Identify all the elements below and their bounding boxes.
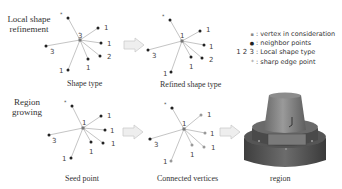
legend-label: : sharp edge point bbox=[256, 58, 316, 66]
svg-text:1: 1 bbox=[210, 130, 214, 138]
svg-text:1: 1 bbox=[59, 67, 63, 75]
center-label: 1 bbox=[82, 119, 86, 127]
neighbor-points bbox=[48, 105, 107, 160]
caption-seed-point: Seed point bbox=[65, 174, 99, 183]
legend-label: : vertex in consideration bbox=[256, 30, 335, 38]
legend-item-sharp-edge: *: sharp edge point bbox=[232, 57, 335, 66]
region-3d-render bbox=[240, 92, 330, 170]
svg-text:1: 1 bbox=[89, 148, 93, 156]
sharp-edge-icon: * bbox=[60, 11, 63, 17]
caption-connected-vertices: Connected vertices bbox=[157, 174, 218, 183]
svg-text:3: 3 bbox=[50, 48, 54, 56]
legend: ▪: vertex in consideration ●: neighbor p… bbox=[232, 30, 335, 66]
sharp-edge-icon: * bbox=[64, 99, 67, 105]
caption-region: region bbox=[270, 174, 290, 183]
refined-shape-type-graph: * 1 1 1 2 1 1 3 bbox=[140, 8, 230, 80]
svg-text:3: 3 bbox=[154, 141, 158, 149]
legend-item-neighbor: ●: neighbor points bbox=[232, 39, 335, 48]
svg-text:1: 1 bbox=[211, 144, 215, 152]
center-label: 1 bbox=[180, 32, 184, 40]
shape-type-numbers: 1 2 3 bbox=[232, 48, 254, 57]
svg-text:1: 1 bbox=[107, 112, 111, 120]
vertex-icon: ▪ bbox=[232, 30, 254, 39]
neighbor-point-icon: ● bbox=[232, 39, 254, 48]
svg-text:2: 2 bbox=[107, 53, 111, 61]
svg-text:1: 1 bbox=[86, 64, 90, 72]
legend-item-vertex: ▪: vertex in consideration bbox=[232, 30, 335, 39]
legend-label: : neighbor points bbox=[256, 39, 311, 47]
svg-text:3: 3 bbox=[152, 52, 156, 60]
neighbor-points bbox=[148, 106, 206, 162]
caption-shape-type: Shape type bbox=[67, 79, 102, 88]
svg-text:1: 1 bbox=[62, 155, 66, 163]
svg-text:1: 1 bbox=[110, 127, 114, 135]
sharp-edge-icon: * bbox=[162, 13, 165, 19]
legend-item-shape-type: 1 2 3: Local shape type bbox=[232, 48, 335, 57]
svg-text:1: 1 bbox=[163, 158, 167, 166]
svg-text:1: 1 bbox=[111, 140, 115, 148]
svg-text:2: 2 bbox=[209, 56, 213, 64]
legend-label: : Local shape type bbox=[256, 48, 315, 56]
arrow-right-icon bbox=[219, 124, 241, 140]
svg-text:1: 1 bbox=[104, 24, 108, 32]
svg-text:1: 1 bbox=[163, 70, 167, 78]
svg-text:3: 3 bbox=[52, 137, 56, 145]
connected-vertices-graph: * 1 1 1 1 1 1 3 bbox=[140, 100, 225, 170]
shape-type-graph: * 3 1 1 2 1 1 3 bbox=[30, 8, 120, 80]
svg-text:1: 1 bbox=[209, 43, 213, 51]
svg-text:1: 1 bbox=[207, 111, 211, 119]
center-label: 1 bbox=[182, 120, 186, 128]
svg-text:1: 1 bbox=[107, 40, 111, 48]
center-label: 3 bbox=[78, 32, 82, 40]
neighbor-points bbox=[147, 19, 206, 74]
caption-refined-shape-type: Refined shape type bbox=[160, 80, 221, 89]
sharp-edge-icon: * bbox=[164, 101, 167, 107]
svg-text:1: 1 bbox=[206, 26, 210, 34]
svg-text:1: 1 bbox=[190, 151, 194, 159]
sharp-edge-icon: * bbox=[232, 57, 254, 66]
seed-point-graph: * 1 1 1 1 1 1 3 bbox=[38, 98, 120, 170]
svg-text:1: 1 bbox=[189, 63, 193, 71]
neighbor-points bbox=[45, 17, 103, 72]
